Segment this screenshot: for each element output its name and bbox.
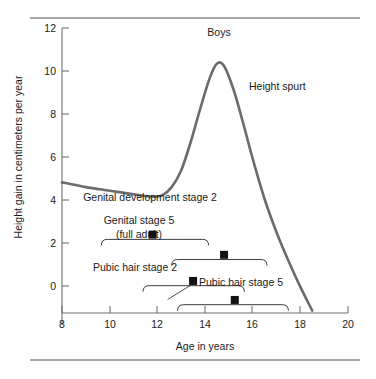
- y-tick-6: 6: [50, 151, 56, 163]
- growth-velocity-chart: Boys 12 10 8 6 4 2 0 Height gain in cent…: [0, 0, 376, 379]
- y-tick-2: 2: [50, 237, 56, 249]
- figure-container: Boys 12 10 8 6 4 2 0 Height gain in cent…: [0, 0, 376, 379]
- x-tick-12: 12: [151, 318, 163, 330]
- annotation-height-spurt: Height spurt: [249, 80, 306, 92]
- x-tick-14: 14: [199, 318, 211, 330]
- event-label-pubic-hair-stage-2: Pubic hair stage 2: [93, 261, 177, 273]
- x-axis-ticks: [62, 306, 348, 313]
- event-bracket-0: [101, 239, 208, 245]
- y-tick-8: 8: [50, 108, 56, 120]
- x-tick-10: 10: [104, 318, 116, 330]
- event-label-genital-stage-2: Genital development stage 2: [83, 191, 217, 203]
- event-leader-2: [168, 285, 192, 300]
- x-axis-tick-labels: 8 10 12 14 16 18 20: [59, 318, 354, 330]
- x-axis-title: Age in years: [176, 340, 234, 352]
- height-velocity-curve: [62, 62, 312, 310]
- x-tick-8: 8: [59, 318, 65, 330]
- chart-title: Boys: [207, 26, 230, 38]
- event-marker-2: [189, 277, 197, 285]
- event-marker-3: [231, 296, 239, 304]
- x-tick-16: 16: [246, 318, 258, 330]
- event-bracket-1: [172, 260, 267, 266]
- event-label-genital-stage-5-sub: (full adult): [116, 228, 162, 240]
- y-tick-4: 4: [50, 194, 56, 206]
- y-tick-10: 10: [44, 65, 56, 77]
- event-bracket-3: [178, 305, 289, 311]
- y-axis-tick-labels: 12 10 8 6 4 2 0: [44, 22, 56, 292]
- y-axis-title: Height gain in centimeters per year: [12, 75, 24, 238]
- event-label-pubic-hair-stage-5: Pubic hair stage 5: [199, 276, 283, 288]
- y-tick-12: 12: [44, 22, 56, 34]
- event-label-genital-stage-5: Genital stage 5: [104, 214, 175, 226]
- event-marker-1: [220, 251, 228, 259]
- y-tick-0: 0: [50, 280, 56, 292]
- y-axis-ticks: [62, 28, 69, 286]
- x-tick-20: 20: [342, 318, 354, 330]
- x-tick-18: 18: [294, 318, 306, 330]
